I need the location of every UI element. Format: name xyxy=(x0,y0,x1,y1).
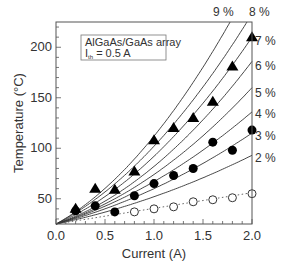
filled-circle-marker xyxy=(130,191,139,200)
filled-circle-marker xyxy=(110,207,119,216)
filled-circle-marker xyxy=(91,201,100,210)
triangle-marker xyxy=(109,184,121,194)
x-tick-label: 0.5 xyxy=(96,228,114,243)
triangle-marker xyxy=(187,112,199,122)
x-tick-labels: 0.0 0.5 1.0 1.5 2.0 xyxy=(47,228,261,243)
filled-circle-marker xyxy=(169,171,178,180)
curve-label: 4 % xyxy=(255,107,276,121)
open-circle-marker xyxy=(170,203,178,211)
curve-label: 6 % xyxy=(255,59,276,73)
annotation-value: = 0.5 A xyxy=(93,47,131,59)
open-circle-marker xyxy=(209,196,217,204)
filled-circle-marker xyxy=(150,179,159,188)
filled-circle-marker xyxy=(208,138,217,147)
x-tick-label: 1.5 xyxy=(194,228,212,243)
triangle-marker xyxy=(168,122,180,132)
curve-label: 7 % xyxy=(255,34,276,48)
filled-circle-marker xyxy=(71,206,80,215)
open-circle-marker xyxy=(130,208,138,216)
triangle-marker xyxy=(207,96,219,106)
curve-label: 5 % xyxy=(255,86,276,100)
x-axis-title: Current (A) xyxy=(122,246,186,261)
y-tick-label: 150 xyxy=(30,90,52,105)
triangle-marker xyxy=(148,134,160,144)
y-tick-label: 50 xyxy=(38,191,52,206)
x-tick-label: 1.0 xyxy=(145,228,163,243)
y-tick-label: 100 xyxy=(30,140,52,155)
x-tick-label: 0.0 xyxy=(47,228,65,243)
y-tick-label: 200 xyxy=(30,39,52,54)
y-tick-labels: 50 100 150 200 xyxy=(30,39,52,206)
curve-label: 2 % xyxy=(255,151,276,165)
filled-circle-marker xyxy=(228,146,237,155)
model-curve xyxy=(56,37,252,224)
curve-labels: 9 %8 %7 %6 %5 %4 %3 %2 % xyxy=(213,5,276,165)
open-circle-marker xyxy=(228,194,236,202)
curve-label: 8 % xyxy=(249,5,270,19)
filled-circle-marker xyxy=(189,164,198,173)
curve-label: 9 % xyxy=(213,5,234,19)
temperature-vs-current-chart: 0.0 0.5 1.0 1.5 2.0 50 100 150 200 Curre… xyxy=(0,0,287,269)
open-circle-marker xyxy=(150,205,158,213)
triangle-marker xyxy=(89,183,101,193)
y-axis-title: Temperature (°C) xyxy=(11,73,26,173)
curve-label: 3 % xyxy=(255,129,276,143)
annotation-box: AlGaAs/GaAs array Ith = 0.5 A xyxy=(81,35,181,60)
open-circle-marker xyxy=(189,198,197,206)
x-tick-label: 2.0 xyxy=(243,228,261,243)
triangle-marker xyxy=(226,60,238,70)
